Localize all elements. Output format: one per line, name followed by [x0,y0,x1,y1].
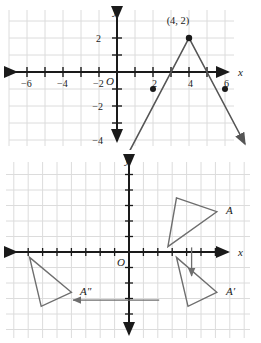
y-tick-label-neg2: −2 [92,101,103,112]
bottom-graph-svg: x y O A A′ A″ [0,150,261,343]
data-point-4-2 [186,35,192,41]
y-axis-label-top: y [112,5,118,17]
data-point-2-neg1 [150,86,156,92]
figure-bottom-triangle-transformation: x y O A A′ A″ [0,150,261,343]
origin-label-bottom: O [117,256,125,268]
x-tick-label-4: 4 [188,78,193,89]
y-tick-label-neg4: −4 [92,135,103,146]
x-tick-label-neg4: −4 [57,78,68,89]
triangle-a-label: A [225,204,233,216]
top-graph-svg: x y O −6 −4 −2 2 4 6 2 −2 −4 (4, 2) [0,0,261,150]
y-tick-label-2: 2 [96,33,101,44]
x-axis-label-bottom: x [237,246,243,258]
triangle-a-prime-label: A′ [225,285,236,297]
vertex-annotation-label: (4, 2) [167,15,190,27]
grid-lines-top [9,10,234,146]
origin-label-top: O [106,75,114,87]
x-tick-label-neg2: −2 [93,78,104,89]
triangle-a-double-prime-label: A″ [79,285,92,297]
y-axis-label-bottom: y [124,154,130,166]
x-axis-label-top: x [237,66,243,78]
worksheet-page: x y O −6 −4 −2 2 4 6 2 −2 −4 (4, 2) [0,0,261,343]
data-point-6-neg1 [222,86,228,92]
x-tick-label-neg6: −6 [21,78,32,89]
figure-top-absolute-value-graph: x y O −6 −4 −2 2 4 6 2 −2 −4 (4, 2) [0,0,261,150]
